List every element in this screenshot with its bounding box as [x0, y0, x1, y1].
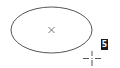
drawing-canvas[interactable]: 5	[0, 0, 120, 68]
crosshair-cursor-icon	[83, 51, 101, 66]
shape-number-label: 5	[101, 39, 108, 50]
x-mark-icon	[49, 27, 55, 33]
